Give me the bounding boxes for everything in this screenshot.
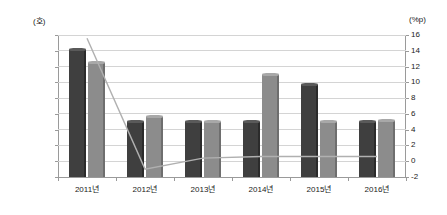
x-axis-tick-mark	[232, 177, 233, 181]
y2-axis-tick-mark	[406, 145, 409, 146]
chart-container: (호) (%p) 0200040006000800010000120001400…	[0, 0, 447, 215]
y2-axis-tick-label: 16	[411, 31, 441, 39]
x-axis-tick-mark	[58, 177, 59, 181]
y2-axis-tick-label: 2	[411, 141, 441, 149]
y2-axis-unit-label: (%p)	[409, 15, 426, 24]
x-axis-tick-label: 2013년	[174, 183, 232, 194]
y2-axis-tick-label: 4	[411, 126, 441, 134]
y2-axis-tick-label: 0	[411, 157, 441, 165]
y2-axis-tick-mark	[406, 35, 409, 36]
y2-axis-tick-label: 10	[411, 78, 441, 86]
y2-axis-tick-mark	[406, 51, 409, 52]
x-axis-tick-mark	[348, 177, 349, 181]
x-axis-tick-label: 2014년	[232, 183, 290, 194]
y2-axis-tick-label: -2	[411, 173, 441, 181]
y-axis-unit-label: (호)	[33, 15, 45, 26]
x-axis-tick-mark	[290, 177, 291, 181]
y2-axis-tick-mark	[406, 98, 409, 99]
y2-axis-tick-label: 14	[411, 47, 441, 55]
x-axis-tick-mark	[174, 177, 175, 181]
line-series-layer	[58, 35, 406, 177]
y2-axis-tick-mark	[406, 114, 409, 115]
x-axis-tick-mark	[116, 177, 117, 181]
x-axis-tick-label: 2011년	[58, 183, 116, 194]
y2-axis-tick-label: 6	[411, 110, 441, 118]
y2-axis-tick-label: 8	[411, 94, 441, 102]
y2-axis-tick-mark	[406, 82, 409, 83]
line-series-path	[87, 38, 377, 169]
plot-area: 0200040006000800010000120001400016000180…	[58, 35, 406, 177]
y2-axis-tick-mark	[406, 130, 409, 131]
x-axis-tick-label: 2016년	[348, 183, 406, 194]
y2-axis-tick-mark	[406, 161, 409, 162]
x-axis-tick-label: 2015년	[290, 183, 348, 194]
y2-axis-tick-label: 12	[411, 63, 441, 71]
y2-axis-tick-mark	[406, 67, 409, 68]
x-axis-tick-mark	[406, 177, 407, 181]
x-axis-tick-label: 2012년	[116, 183, 174, 194]
